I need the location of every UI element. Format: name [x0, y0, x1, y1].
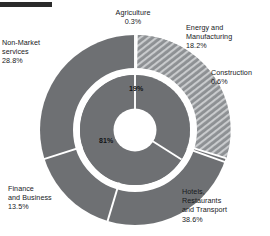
- label-construction: Construction 0.6%: [211, 68, 269, 86]
- inner-label-share-large: 81%: [99, 137, 113, 144]
- donut-chart-figure: Agriculture 0.3% Energy and Manufacturin…: [0, 0, 270, 236]
- inner-label-share-small: 19%: [129, 85, 143, 92]
- label-finance-business: Finance and Business 13.5%: [8, 184, 92, 212]
- label-hotels-restaurants-transport: Hotels, Restaurants and Transport 38.6%: [182, 187, 268, 224]
- label-non-market-services: Non-Market services 28.8%: [2, 38, 78, 66]
- donut-hub: [114, 109, 157, 152]
- label-energy-manufacturing: Energy and Manufacturing 18.2%: [186, 23, 268, 51]
- label-agriculture: Agriculture 0.3%: [96, 8, 170, 26]
